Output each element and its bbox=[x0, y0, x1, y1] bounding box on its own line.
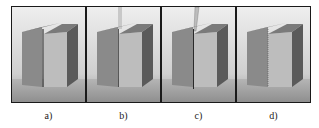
panel-b bbox=[87, 7, 160, 102]
figure-panel-strip bbox=[11, 6, 311, 103]
blocks-image-a bbox=[12, 7, 85, 102]
panel-label-b: b) bbox=[86, 110, 161, 121]
blocks-image-b bbox=[87, 7, 160, 102]
blocks-image-c bbox=[162, 7, 235, 102]
panel-label-d: d) bbox=[236, 110, 311, 121]
blocks-image-d bbox=[237, 7, 310, 102]
panel-label-c: c) bbox=[161, 110, 236, 121]
panel-d bbox=[237, 7, 310, 102]
panel-a bbox=[12, 7, 85, 102]
panel-c bbox=[162, 7, 235, 102]
panel-label-a: a) bbox=[11, 110, 86, 121]
